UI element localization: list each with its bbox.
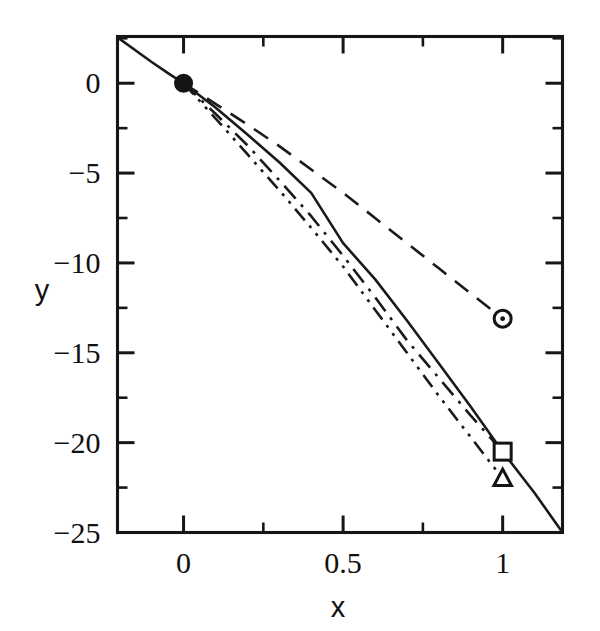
x-tick-label: 0.5: [324, 546, 362, 579]
y-tick-label: −10: [54, 246, 101, 279]
line-chart-plot: 0−5−10−15−20−2500.51xy: [0, 0, 600, 631]
series-dashed-curve: [184, 83, 503, 318]
y-axis-label: y: [35, 274, 50, 306]
marker-dashed-endpoint-center-dot: [500, 316, 505, 321]
marker-dash-dot-endpoint: [494, 443, 511, 460]
y-tick-label: −5: [69, 156, 101, 189]
chart-figure: 0−5−10−15−20−2500.51xy: [0, 0, 600, 631]
axis-tick-labels: 0−5−10−15−20−2500.51xy: [35, 66, 510, 622]
data-markers-group: [175, 75, 511, 486]
marker-dash-dot-dot-endpoint: [494, 469, 511, 485]
y-tick-label: −25: [54, 516, 101, 549]
y-tick-label: −20: [54, 426, 101, 459]
marker-origin-point: [175, 75, 192, 92]
x-tick-label: 1: [495, 546, 510, 579]
series-dash-dot-dot-curve: [184, 83, 503, 478]
y-tick-label: −15: [54, 336, 101, 369]
x-tick-label: 0: [176, 546, 191, 579]
x-axis-label: x: [331, 591, 346, 623]
y-tick-label: 0: [86, 66, 101, 99]
